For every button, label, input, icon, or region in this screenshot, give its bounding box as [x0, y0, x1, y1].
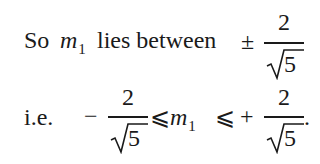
- fraction-bar: [108, 116, 148, 118]
- radicand: 5: [284, 52, 296, 76]
- subscript-1: 1: [188, 118, 196, 134]
- line1-prefix: So: [24, 28, 49, 52]
- line2-variable: m1: [170, 105, 196, 132]
- numerator: 2: [108, 85, 148, 109]
- plus-sign: +: [240, 104, 254, 128]
- fraction-bar: [264, 42, 304, 44]
- denominator: 5: [264, 120, 304, 154]
- numerator: 2: [264, 10, 304, 34]
- subscript-1: 1: [78, 41, 86, 57]
- less-equal-sign-1: ⩽: [150, 105, 170, 129]
- radicand: 5: [284, 126, 296, 150]
- fraction-2-over-sqrt5: 2 5: [264, 8, 304, 82]
- less-equal-sign-2: ⩽: [215, 105, 235, 129]
- variable-m: m: [170, 104, 187, 130]
- radicand: 5: [128, 126, 140, 150]
- line1-variable: m1: [60, 28, 86, 55]
- minus-sign: −: [84, 104, 98, 128]
- denominator: 5: [264, 46, 304, 80]
- fraction-bar: [264, 116, 304, 118]
- denominator: 5: [108, 120, 148, 154]
- line2-prefix: i.e.: [24, 105, 53, 129]
- line1-text: lies between: [97, 28, 216, 52]
- variable-m: m: [60, 27, 77, 53]
- numerator: 2: [264, 85, 304, 109]
- plus-minus-sign: ±: [241, 29, 254, 53]
- right-fraction-2-over-sqrt5: 2 5: [264, 83, 304, 157]
- left-fraction-2-over-sqrt5: 2 5: [108, 83, 148, 157]
- terminating-period: .: [304, 105, 310, 129]
